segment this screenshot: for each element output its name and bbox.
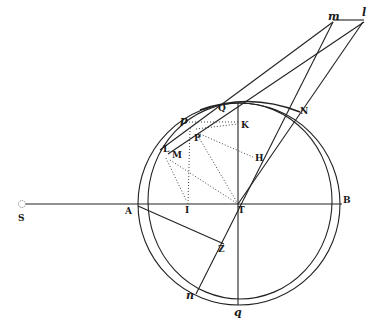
label-n: n [186,289,194,302]
label-Q: Q [218,103,226,113]
sun-marker [19,201,26,208]
label-M: M [172,150,182,160]
label-Z: Z [218,244,225,254]
dotted-P-K [196,124,238,129]
label-l: l [362,6,366,19]
label-B: B [343,195,351,205]
label-p: p [180,114,188,127]
tangent-m [160,22,333,150]
dotted-M-T [170,160,238,204]
label-L: L [163,144,170,154]
label-K: K [241,120,250,130]
label-m: m [328,10,340,23]
dotted-M-I [166,158,186,200]
label-S: S [18,213,25,223]
label-I: I [185,205,189,215]
geometry-diagram: S A B T I Z P K H L M Q N p n q m l [0,0,376,321]
label-A: A [124,206,133,216]
dotted-P-T [198,136,238,204]
label-q: q [234,306,242,319]
label-H: H [255,153,264,163]
label-P: P [194,133,201,143]
label-T: T [238,205,245,215]
line-m-n [196,22,333,294]
label-N: N [300,106,308,116]
